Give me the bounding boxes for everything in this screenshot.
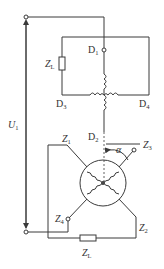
label-z1: Z1: [62, 133, 71, 145]
impedance-zl-top: [59, 57, 65, 70]
terminal-z3: [132, 148, 136, 152]
label-zl-top: ZL: [45, 58, 55, 70]
coil-top: [104, 74, 106, 95]
label-d2: D2: [88, 131, 98, 143]
label-d1: D1: [88, 44, 98, 56]
coil-right: [104, 93, 118, 95]
terminal-z4: [66, 217, 70, 221]
terminal-d1: [102, 48, 106, 52]
winding-z1: [87, 172, 103, 183]
circuit-diagram: U1 D1 D3 D4 D2 ZL Z1 Z3 Z4 Z2 ZL α: [0, 0, 164, 269]
wire-rect-left-bottom: [62, 70, 90, 95]
winding-z4: [87, 183, 103, 194]
terminal-bottom-left: [24, 230, 28, 234]
label-d4: D4: [139, 98, 150, 110]
impedance-zl-bottom: [80, 235, 96, 241]
label-alpha: α: [116, 144, 122, 155]
label-zl-bottom: ZL: [82, 247, 92, 259]
coil-bottom: [104, 95, 106, 132]
winding-z3: [103, 172, 119, 183]
label-u1: U1: [8, 119, 18, 131]
label-d3: D3: [56, 98, 66, 110]
winding-z2: [103, 183, 119, 194]
wire-z4: [69, 199, 87, 218]
terminal-top-left: [24, 15, 28, 19]
label-z3: Z3: [143, 139, 152, 151]
coil-left: [90, 93, 104, 95]
label-z4: Z4: [55, 213, 65, 225]
wire-z2: [96, 199, 136, 238]
label-z2: Z2: [139, 222, 148, 234]
